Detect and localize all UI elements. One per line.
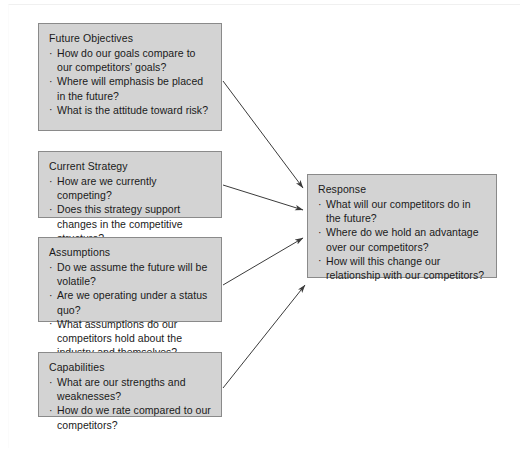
- list-item-text: What is the attitude toward risk?: [57, 104, 208, 116]
- bullet-icon: ·: [318, 197, 322, 211]
- list-item: ·Are we operating under a status quo?: [49, 288, 212, 316]
- diagram-canvas: Future Objectives ·How do our goals comp…: [0, 0, 524, 453]
- list-item-text: How do we rate compared to our competito…: [57, 404, 211, 430]
- arrow-capabilities-to-response: [223, 285, 305, 388]
- bullet-icon: ·: [49, 202, 53, 216]
- node-capabilities[interactable]: Capabilities ·What are our strengths and…: [38, 352, 222, 417]
- list-item-text: Are we operating under a status quo?: [57, 289, 207, 315]
- node-title: Future Objectives: [49, 31, 212, 45]
- node-title: Capabilities: [49, 360, 212, 374]
- list-item-text: What are our strengths and weaknesses?: [57, 376, 186, 402]
- bullet-icon: ·: [49, 375, 53, 389]
- node-question-list: ·How are we currently competing? ·Does t…: [49, 174, 212, 245]
- bullet-icon: ·: [49, 46, 53, 60]
- bullet-icon: ·: [318, 225, 322, 239]
- list-item-text: How are we currently competing?: [57, 175, 157, 201]
- bullet-icon: ·: [49, 260, 53, 274]
- list-item: ·What are our strengths and weaknesses?: [49, 375, 212, 403]
- bullet-icon: ·: [49, 174, 53, 188]
- arrow-current-strategy-to-response: [223, 185, 303, 210]
- node-title: Assumptions: [49, 245, 212, 259]
- list-item: ·What is the attitude toward risk?: [49, 103, 212, 117]
- list-item-text: Where will emphasis be placed in the fut…: [57, 75, 203, 101]
- list-item: ·How will this change our relationship w…: [318, 254, 487, 282]
- list-item-text: How will this change our relationship wi…: [326, 255, 484, 281]
- node-question-list: ·How do our goals compare to our competi…: [49, 46, 212, 117]
- node-response[interactable]: Response ·What will our competitors do i…: [307, 174, 497, 278]
- list-item-text: What will our competitors do in the futu…: [326, 198, 471, 224]
- node-question-list: ·Do we assume the future will be volatil…: [49, 260, 212, 359]
- list-item-text: Do we assume the future will be volatile…: [57, 261, 207, 287]
- node-question-list: ·What are our strengths and weaknesses? …: [49, 375, 212, 432]
- list-item: ·Do we assume the future will be volatil…: [49, 260, 212, 288]
- list-item: ·How are we currently competing?: [49, 174, 212, 202]
- node-current-strategy[interactable]: Current Strategy ·How are we currently c…: [38, 151, 222, 218]
- node-question-list: ·What will our competitors do in the fut…: [318, 197, 487, 282]
- bullet-icon: ·: [49, 403, 53, 417]
- list-item: ·Where do we hold an advantage over our …: [318, 225, 487, 253]
- list-item: ·How do our goals compare to our competi…: [49, 46, 212, 74]
- arrow-future-objectives-to-response: [223, 81, 303, 188]
- bullet-icon: ·: [49, 288, 53, 302]
- bullet-icon: ·: [49, 102, 53, 116]
- bullet-icon: ·: [49, 74, 53, 88]
- bullet-icon: ·: [49, 316, 53, 330]
- node-title: Response: [318, 182, 487, 196]
- list-item: ·Where will emphasis be placed in the fu…: [49, 74, 212, 102]
- list-item: ·What will our competitors do in the fut…: [318, 197, 487, 225]
- node-assumptions[interactable]: Assumptions ·Do we assume the future wil…: [38, 237, 222, 322]
- node-future-objectives[interactable]: Future Objectives ·How do our goals comp…: [38, 23, 222, 131]
- list-item-text: Where do we hold an advantage over our c…: [326, 226, 479, 252]
- arrow-assumptions-to-response: [223, 238, 303, 285]
- list-item-text: How do our goals compare to our competit…: [57, 47, 196, 73]
- bullet-icon: ·: [318, 253, 322, 267]
- node-title: Current Strategy: [49, 159, 212, 173]
- list-item: ·How do we rate compared to our competit…: [49, 403, 212, 431]
